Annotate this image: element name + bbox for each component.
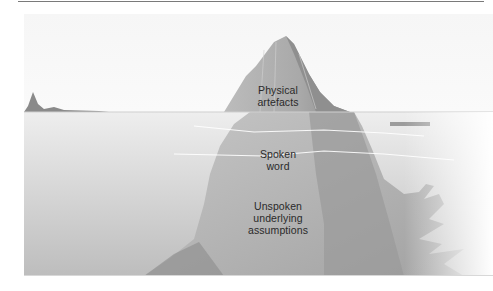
label-spoken-word: Spoken word — [248, 148, 308, 172]
iceberg-illustration: Physical artefacts Spoken word Unspoken … — [24, 14, 493, 276]
label-physical-artefacts: Physical artefacts — [243, 84, 313, 108]
iceberg-graphic — [24, 14, 493, 276]
top-rule — [18, 1, 484, 2]
label-unspoken-assumptions: Unspoken underlying assumptions — [238, 200, 318, 236]
